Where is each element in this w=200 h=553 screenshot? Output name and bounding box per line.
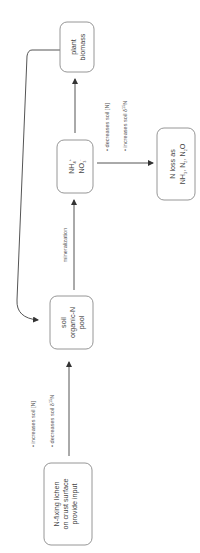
lichen-line-1: N-fixing lichen bbox=[52, 481, 61, 526]
loss-line-2: NH3, N2, N2O bbox=[178, 143, 188, 184]
mineralization-label: mineralization bbox=[62, 228, 68, 263]
loss-bullet-2: • increases soil δ15N bbox=[122, 101, 129, 151]
plant-line-2: biomass bbox=[78, 33, 87, 60]
soil-line-3: pool bbox=[77, 315, 86, 329]
loss-edge-bullets: • decreases soil [N] • increases soil δ1… bbox=[104, 101, 128, 151]
lichen-edge-bullets: • increases soil [N] • decreases soil δ1… bbox=[30, 395, 55, 447]
lichen-bullet-2: • decreases soil δ15N bbox=[49, 395, 56, 447]
nitrogen-cycle-diagram: N-fixing lichen on crust surface provide… bbox=[0, 0, 200, 553]
soil-line-1: soil bbox=[59, 317, 68, 328]
soil-line-2: organic-N bbox=[68, 307, 77, 338]
plant-line-1: plant bbox=[69, 39, 78, 55]
loss-line-1: N loss as bbox=[168, 149, 177, 179]
node-lichen: N-fixing lichen on crust surface provide… bbox=[44, 463, 92, 545]
lichen-line-2: on crust surface bbox=[61, 478, 70, 529]
node-inorganic-n: NH4+ NO3- bbox=[57, 140, 93, 193]
loss-bullet-1: • decreases soil [N] bbox=[104, 103, 110, 151]
node-soil-organic-n-pool: soil organic-N pool bbox=[50, 296, 93, 349]
node-plant-biomass: plant biomass bbox=[60, 22, 94, 72]
arrow-plant-to-soil bbox=[17, 50, 60, 320]
lichen-line-3: provide input bbox=[70, 483, 79, 524]
node-n-loss: N loss as NH3, N2, N2O bbox=[157, 128, 195, 200]
lichen-bullet-1: • increases soil [N] bbox=[30, 400, 36, 447]
mineralization-label-group: mineralization bbox=[62, 228, 68, 263]
